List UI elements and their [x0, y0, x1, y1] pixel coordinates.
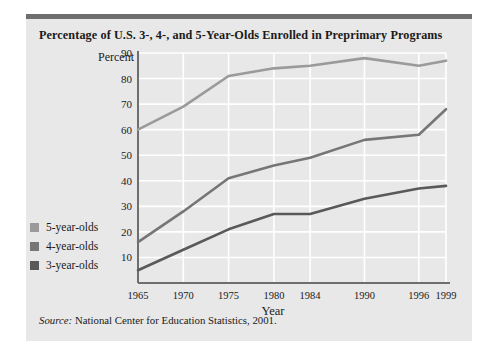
source-note: Source: National Center for Education St… — [39, 314, 277, 326]
y-tick-label: 60 — [108, 124, 132, 136]
legend-swatch-icon — [30, 261, 39, 270]
legend-item: 4-year-olds — [30, 237, 150, 255]
legend-label: 4-year-olds — [46, 240, 98, 252]
legend-swatch-icon — [30, 242, 39, 251]
x-tick-label: 1975 — [218, 290, 239, 301]
legend-label: 5-year-olds — [46, 221, 98, 233]
source-text: National Center for Education Statistics… — [75, 314, 277, 326]
x-tick-label: 1970 — [173, 290, 194, 301]
chart-page: Percentage of U.S. 3-, 4-, and 5-Year-Ol… — [0, 0, 497, 360]
legend-swatch-icon — [30, 223, 39, 232]
y-tick-label: 30 — [108, 200, 132, 212]
y-tick-label: 90 — [108, 47, 132, 59]
y-tick-label: 40 — [108, 175, 132, 187]
x-tick-label: 1980 — [263, 290, 284, 301]
plot-area: 1020304050607080901965197019751980198419… — [26, 14, 472, 341]
axis-tick-labels: 1020304050607080901965197019751980198419… — [26, 14, 472, 341]
x-tick-label: 1965 — [128, 290, 149, 301]
x-tick-label: 1996 — [408, 290, 429, 301]
x-tick-label: 1984 — [300, 290, 321, 301]
x-tick-label: 1999 — [436, 290, 457, 301]
x-tick-label: 1990 — [354, 290, 375, 301]
chart-card: Percentage of U.S. 3-, 4-, and 5-Year-Ol… — [26, 14, 472, 341]
chart-legend: 5-year-olds4-year-olds3-year-olds — [30, 218, 150, 275]
legend-label: 3-year-olds — [46, 259, 98, 271]
legend-item: 5-year-olds — [30, 218, 150, 236]
legend-item: 3-year-olds — [30, 256, 150, 274]
y-tick-label: 70 — [108, 98, 132, 110]
source-prefix: Source: — [39, 314, 72, 326]
y-tick-label: 80 — [108, 73, 132, 85]
y-tick-label: 50 — [108, 149, 132, 161]
